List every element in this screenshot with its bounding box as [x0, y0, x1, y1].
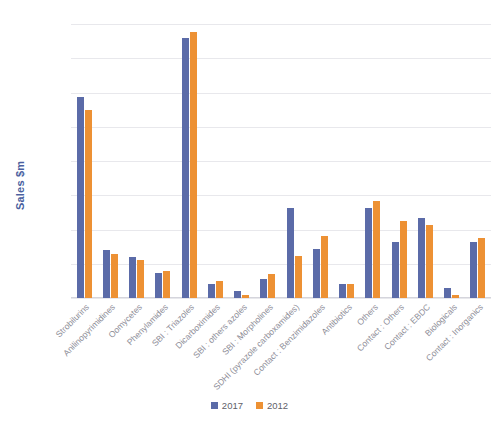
legend-item[interactable]: 2012 [256, 400, 288, 411]
bar [478, 238, 485, 298]
bar [287, 208, 294, 298]
bar [129, 257, 136, 298]
legend-label: 2017 [222, 400, 243, 411]
chart-legend: 20172012 [0, 400, 499, 411]
bar-group [97, 24, 123, 298]
bar-groups [71, 24, 491, 298]
bar [470, 242, 477, 298]
bar [216, 281, 223, 298]
bar-group [150, 24, 176, 298]
bar [295, 256, 302, 298]
y-axis-title: Sales $m [14, 26, 26, 118]
legend-label: 2012 [267, 400, 288, 411]
bar [182, 38, 189, 298]
bar [137, 260, 144, 298]
bar-group [465, 24, 491, 298]
bar-group [176, 24, 202, 298]
bar-group [439, 24, 465, 298]
bar-group [124, 24, 150, 298]
bar [339, 284, 346, 298]
bar [268, 274, 275, 298]
bar-group [255, 24, 281, 298]
bar-chart: Sales $m 0500100015002000250030003500400… [0, 0, 499, 429]
plot-area: 05001000150020002500300035004000 [71, 24, 491, 298]
y-axis-title-label: Sales $m [14, 118, 26, 210]
bar-group [412, 24, 438, 298]
bar-group [229, 24, 255, 298]
bar [400, 221, 407, 298]
bar [77, 97, 84, 298]
bar-group [281, 24, 307, 298]
bar [321, 236, 328, 298]
bar [234, 291, 241, 298]
bar [111, 254, 118, 298]
bar-group [386, 24, 412, 298]
bar [373, 201, 380, 298]
bar [392, 242, 399, 298]
bar [85, 110, 92, 298]
bar [365, 208, 372, 298]
bar [418, 218, 425, 298]
legend-swatch-icon [211, 402, 218, 409]
bar [163, 271, 170, 298]
bar-group [334, 24, 360, 298]
bar-group [360, 24, 386, 298]
legend-item[interactable]: 2017 [211, 400, 243, 411]
bar [103, 250, 110, 298]
bar [260, 279, 267, 298]
bar [347, 284, 354, 298]
bar [313, 249, 320, 298]
bar [190, 32, 197, 298]
bar-group [307, 24, 333, 298]
legend-swatch-icon [256, 402, 263, 409]
bar [242, 295, 249, 298]
gridline [71, 298, 491, 299]
bar [426, 225, 433, 298]
bar [155, 273, 162, 298]
bar [452, 295, 459, 298]
bar [444, 288, 451, 298]
bar-group [202, 24, 228, 298]
bar [208, 284, 215, 298]
x-axis-labels: StrobilurinsAnilinopyrimidinesOomycetesP… [71, 300, 491, 392]
bar-group [71, 24, 97, 298]
